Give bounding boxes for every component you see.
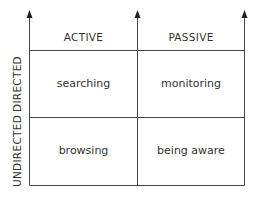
- row-header-directed: DIRECTED: [11, 56, 23, 112]
- row-header-undirected: UNDIRECTED: [11, 115, 23, 187]
- cell-monitoring: monitoring: [138, 77, 244, 90]
- cell-browsing: browsing: [30, 144, 137, 157]
- quadrant-grid: [0, 0, 254, 197]
- cell-being-aware: being aware: [138, 144, 244, 157]
- column-header-active: ACTIVE: [30, 31, 137, 43]
- arrow-up-icon: [27, 10, 33, 18]
- cell-searching: searching: [30, 77, 137, 90]
- arrow-up-icon: [242, 10, 248, 18]
- arrow-up-icon: [135, 10, 141, 18]
- column-header-passive: PASSIVE: [138, 31, 244, 43]
